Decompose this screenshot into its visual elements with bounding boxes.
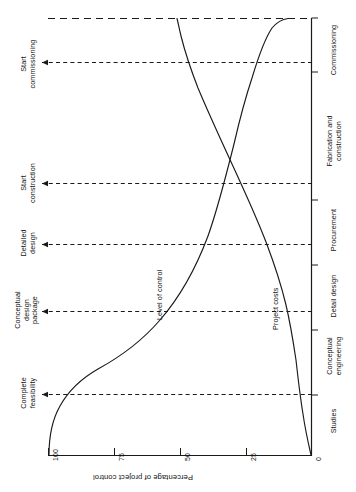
x-tick-label-100: 100 (52, 449, 61, 461)
chart-canvas (0, 0, 356, 492)
x-tick-label-0: 0 (315, 457, 324, 461)
milestone-line2: commissioning (29, 16, 38, 112)
phase-label-fabrication-and-construction: Fabrication and construction (326, 82, 343, 200)
x-tick-label-75: 75 (118, 453, 127, 461)
milestone-line3: package (31, 272, 40, 348)
milestone-label-start-commissioning: Start commissioning (20, 16, 37, 112)
phase-label-conceptual-engineering: Conceptual engineering (326, 320, 343, 392)
chart-figure: Percentage of project control 100 75 50 … (0, 0, 356, 492)
milestone-line2: design (29, 210, 38, 276)
x-axis-title: Percentage of project control (38, 472, 248, 481)
level-of-control-label: Level of control (156, 270, 165, 320)
axes (48, 18, 312, 456)
milestone-label-complete-feasibility: Complete feasibility (20, 358, 37, 428)
phase-line1: Procurement (330, 195, 339, 265)
milestone-line2: feasibility (29, 358, 38, 428)
phase-line1: Commissioning (330, 8, 339, 92)
x-tick-label-50: 50 (184, 453, 193, 461)
phase-axis-ticks (312, 18, 319, 395)
x-axis-ticks (49, 448, 312, 456)
phase-label-studies: Studies (330, 394, 339, 448)
milestone-label-conceptual-design-package: Conceptual design package (14, 272, 40, 348)
phase-line2: engineering (335, 320, 344, 392)
phase-label-procurement: Procurement (330, 195, 339, 265)
milestone-label-detailed-design: Detailed design (20, 210, 37, 276)
x-tick-label-25: 25 (250, 453, 259, 461)
milestone-lines (42, 63, 312, 395)
project-costs-curve (177, 19, 311, 456)
project-costs-label: Project costs (272, 288, 281, 330)
level-of-control-curve (49, 19, 288, 456)
phase-line1: Studies (330, 394, 339, 448)
phase-line2: construction (335, 82, 344, 200)
phase-label-commissioning: Commissioning (330, 8, 339, 92)
